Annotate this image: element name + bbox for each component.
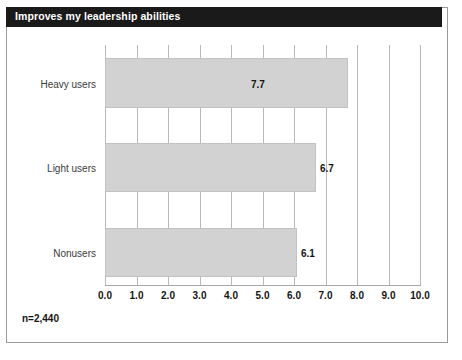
gridline-8 [357, 45, 358, 285]
bar-nonusers [105, 228, 297, 277]
bar-value-heavy-users: 7.7 [251, 79, 265, 90]
page-title: Improves my leadership abilities [15, 10, 180, 22]
chart-title-bar: Improves my leadership abilities [6, 7, 442, 27]
x-tick-label-10: 10.0 [400, 290, 440, 301]
category-label-light-users: Light users [26, 163, 96, 174]
category-label-heavy-users: Heavy users [26, 79, 96, 90]
category-label-nonusers: Nonusers [26, 248, 96, 259]
sample-size-note: n=2,440 [22, 313, 59, 324]
x-axis-line [105, 285, 421, 286]
gridline-10 [420, 45, 421, 285]
bar-heavy-users [105, 58, 348, 108]
gridline-9 [389, 45, 390, 285]
bar-value-nonusers: 6.1 [301, 248, 315, 259]
bar-light-users [105, 143, 316, 192]
bar-value-light-users: 6.7 [320, 163, 334, 174]
